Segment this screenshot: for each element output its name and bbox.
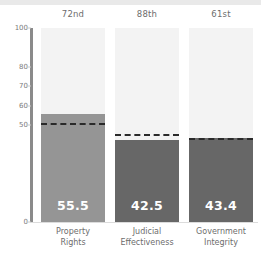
y-axis-tick-mark: [26, 105, 31, 106]
y-axis-tick-label: 80: [0, 63, 28, 71]
category-label-line: Effectiveness: [111, 238, 183, 249]
category-label-line: Judicial: [111, 227, 183, 238]
y-axis-tick-mark: [26, 86, 31, 87]
y-axis-tick-mark: [26, 125, 31, 126]
reference-dashed-line: [41, 123, 105, 125]
reference-dashed-line: [115, 134, 179, 136]
rank-label-property-rights: 72nd: [36, 6, 110, 22]
y-axis-tick-label: 70: [0, 82, 28, 90]
bar-value-label-property-rights: 55.5: [41, 198, 105, 213]
bar-column-judicial-effectiveness[interactable]: 42.5: [115, 28, 179, 222]
y-axis-tick-mark: [26, 28, 31, 29]
category-label-property-rights: Property Rights: [36, 227, 110, 257]
x-axis-baseline: [30, 222, 258, 223]
bar-chart: 72nd 88th 61st 100807060500 55.542.543.4…: [0, 0, 261, 261]
y-axis-tick-mark: [26, 66, 31, 67]
category-label-line: Government: [185, 227, 257, 238]
category-label-line: Property: [37, 227, 109, 238]
rank-label-row: 72nd 88th 61st: [36, 6, 258, 22]
reference-dashed-line: [189, 138, 253, 140]
bar-column-property-rights[interactable]: 55.5: [41, 28, 105, 222]
category-label-line: Integrity: [185, 238, 257, 249]
y-axis-tick-label: 100: [0, 24, 28, 32]
y-axis-tick-label: 0: [0, 218, 28, 226]
rank-label-judicial-effectiveness: 88th: [110, 6, 184, 22]
rank-label-government-integrity: 61st: [184, 6, 258, 22]
category-label-line: Rights: [37, 238, 109, 249]
y-axis-tick-label: 60: [0, 102, 28, 110]
bar-value-label-judicial-effectiveness: 42.5: [115, 198, 179, 213]
category-label-judicial-effectiveness: Judicial Effectiveness: [110, 227, 184, 257]
bar-column-government-integrity[interactable]: 43.4: [189, 28, 253, 222]
plot-area: 55.542.543.4: [36, 28, 258, 222]
category-label-government-integrity: Government Integrity: [184, 227, 258, 257]
y-axis-tick-label: 50: [0, 121, 28, 129]
category-label-row: Property Rights Judicial Effectiveness G…: [36, 227, 258, 257]
bar-value-label-government-integrity: 43.4: [189, 198, 253, 213]
